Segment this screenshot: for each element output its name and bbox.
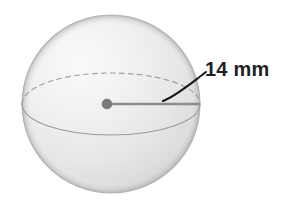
sphere-drawing: [0, 0, 284, 209]
sphere-diagram: 14 mm: [0, 0, 284, 209]
radius-dimension-label: 14 mm: [205, 59, 269, 79]
center-point-dot: [102, 99, 112, 109]
